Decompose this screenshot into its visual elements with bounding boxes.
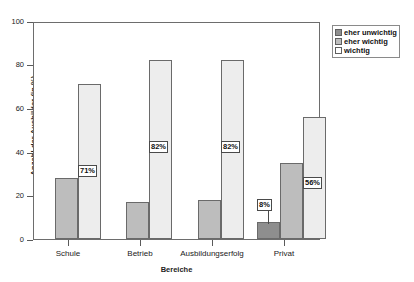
chart-legend: eher unwichtig eher wichtig wichtig — [332, 25, 400, 58]
y-tick-label-100: 100 — [0, 18, 24, 26]
bar-group-ausbildungserfolg: 82% — [177, 23, 249, 239]
y-tick-label-20: 20 — [0, 192, 24, 200]
y-tick-label-40: 40 — [0, 149, 24, 157]
legend-label-eher-wichtig: eher wichtig — [344, 37, 388, 46]
bar-group-schule: 71% — [34, 23, 105, 239]
data-label-leader-line — [268, 209, 269, 224]
legend-label-wichtig: wichtig — [344, 46, 370, 55]
bar-ausbildungserfolg-eher-wichtig — [198, 200, 221, 239]
bar-privat-eher-wichtig — [280, 163, 303, 239]
bar-group-privat: 8% 56% — [249, 23, 321, 239]
x-tick-mark-ausbildungserfolg — [212, 240, 213, 246]
x-tick-label-schule: Schule — [33, 249, 103, 258]
data-label-schule-wichtig: 71% — [78, 165, 97, 177]
bar-chart-figure: Anzahl der Ausbilder (in %) 0 20 40 60 8… — [0, 0, 414, 282]
data-label-betrieb-wichtig: 82% — [149, 141, 168, 153]
x-tick-mark-schule — [68, 240, 69, 246]
legend-item-eher-unwichtig: eher unwichtig — [335, 28, 397, 37]
bar-group-betrieb: 82% — [105, 23, 177, 239]
x-axis-title: Bereiche — [33, 265, 320, 274]
legend-item-wichtig: wichtig — [335, 46, 397, 55]
legend-label-eher-unwichtig: eher unwichtig — [344, 28, 397, 37]
bar-betrieb-eher-wichtig — [126, 202, 149, 239]
y-tick-label-60: 60 — [0, 105, 24, 113]
bar-privat-eher-unwichtig — [257, 222, 280, 239]
legend-swatch-eher-unwichtig — [335, 29, 342, 36]
plot-area: 71% 82% 82% 8% 56% — [33, 22, 320, 240]
legend-item-eher-wichtig: eher wichtig — [335, 37, 397, 46]
data-label-privat-eher-unwichtig: 8% — [257, 199, 272, 211]
y-tick-label-80: 80 — [0, 61, 24, 69]
legend-swatch-eher-wichtig — [335, 38, 342, 45]
data-label-privat-wichtig: 56% — [303, 177, 322, 189]
x-tick-mark-betrieb — [140, 240, 141, 246]
legend-swatch-wichtig — [335, 47, 342, 54]
y-tick-mark-0 — [27, 240, 33, 241]
bar-schule-eher-wichtig — [55, 178, 78, 239]
x-tick-mark-privat — [284, 240, 285, 246]
data-label-ausbildungserfolg-wichtig: 82% — [221, 141, 240, 153]
bar-schule-wichtig — [78, 84, 101, 239]
x-tick-label-privat: Privat — [249, 249, 319, 258]
bars-container: 71% 82% 82% 8% 56% — [34, 23, 319, 239]
y-tick-label-0: 0 — [0, 236, 24, 244]
